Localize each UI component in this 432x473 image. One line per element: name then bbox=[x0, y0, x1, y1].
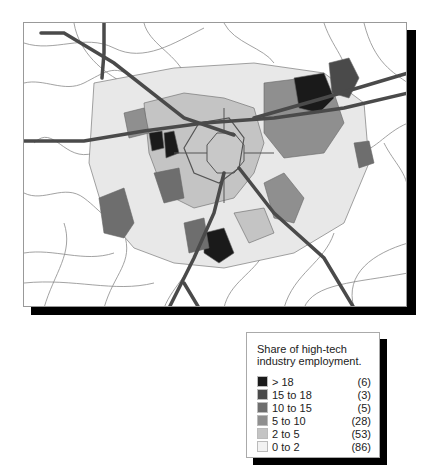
legend-swatch bbox=[257, 428, 268, 439]
legend-title: Share of high-tech industry employment. bbox=[257, 343, 371, 367]
map-legend: Share of high-tech industry employment. … bbox=[246, 332, 380, 458]
legend-label: 10 to 15 bbox=[272, 402, 358, 414]
legend-label: 5 to 10 bbox=[272, 415, 351, 427]
legend-count: (5) bbox=[358, 402, 371, 414]
legend-row: 2 to 5 (53) bbox=[257, 427, 371, 440]
legend-swatch bbox=[257, 402, 268, 413]
legend-label: 0 to 2 bbox=[272, 441, 351, 453]
map-graphic bbox=[24, 23, 407, 307]
legend-row: 5 to 10 (28) bbox=[257, 414, 371, 427]
legend-count: (53) bbox=[351, 428, 371, 440]
legend-swatch bbox=[257, 389, 268, 400]
legend-label: > 18 bbox=[272, 376, 358, 388]
legend-swatch bbox=[257, 376, 268, 387]
legend-count: (28) bbox=[351, 415, 371, 427]
legend-row: 10 to 15 (5) bbox=[257, 401, 371, 414]
legend-count: (3) bbox=[358, 389, 371, 401]
legend-row: 15 to 18 (3) bbox=[257, 388, 371, 401]
legend-count: (6) bbox=[358, 376, 371, 388]
legend-row: > 18 (6) bbox=[257, 375, 371, 388]
legend-row: 0 to 2 (86) bbox=[257, 440, 371, 453]
legend-label: 2 to 5 bbox=[272, 428, 351, 440]
choropleth-map bbox=[23, 22, 407, 307]
legend-label: 15 to 18 bbox=[272, 389, 358, 401]
legend-swatch bbox=[257, 441, 268, 452]
tracts bbox=[89, 58, 374, 268]
legend-swatch bbox=[257, 415, 268, 426]
legend-count: (86) bbox=[351, 441, 371, 453]
